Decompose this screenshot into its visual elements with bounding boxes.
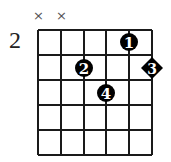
finger-1-marker: 1 bbox=[120, 33, 138, 52]
svg-text:3: 3 bbox=[147, 61, 157, 77]
svg-text:2: 2 bbox=[79, 60, 89, 78]
finger-2-marker: 2 bbox=[75, 59, 93, 78]
finger-3-diamond-marker: 3 bbox=[141, 57, 163, 79]
chord-grid: 1 2 3 4 bbox=[0, 0, 171, 162]
svg-text:4: 4 bbox=[101, 85, 111, 103]
svg-text:1: 1 bbox=[124, 34, 134, 52]
finger-4-marker: 4 bbox=[97, 84, 115, 103]
